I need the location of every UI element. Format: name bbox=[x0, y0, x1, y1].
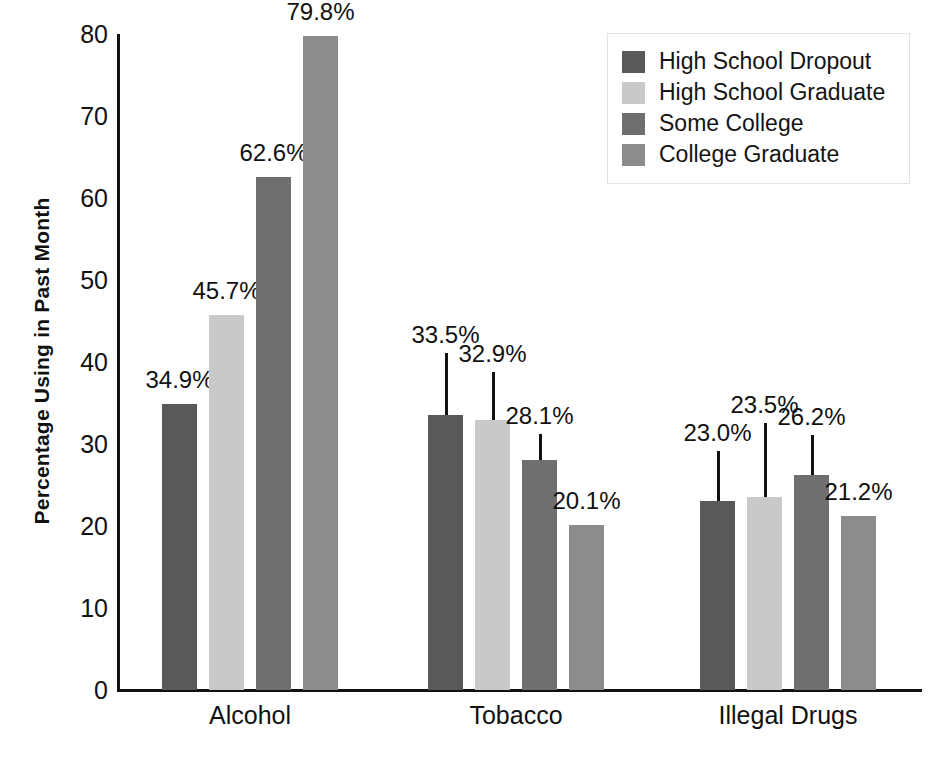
bar bbox=[841, 516, 876, 690]
bar-value-label: 28.1% bbox=[505, 404, 573, 428]
bar-value-label: 79.8% bbox=[286, 0, 354, 24]
bar-value-label: 23.0% bbox=[683, 421, 751, 445]
bar bbox=[209, 315, 244, 690]
legend-item: College Graduate bbox=[608, 139, 909, 170]
y-tick-label: 50 bbox=[46, 268, 108, 293]
x-tick-label: Illegal Drugs bbox=[719, 703, 858, 728]
label-leader-line bbox=[539, 434, 542, 460]
bar-value-label: 20.1% bbox=[552, 489, 620, 513]
x-tick-label: Tobacco bbox=[469, 703, 562, 728]
legend-item: Some College bbox=[608, 108, 909, 139]
y-tick-label: 80 bbox=[46, 22, 108, 47]
bar bbox=[475, 420, 510, 690]
legend-item-label: Some College bbox=[659, 112, 803, 135]
bar-value-label: 32.9% bbox=[458, 342, 526, 366]
label-leader-line bbox=[717, 451, 720, 501]
legend-swatch-icon bbox=[622, 51, 645, 73]
legend-item-label: College Graduate bbox=[659, 143, 839, 166]
label-leader-line bbox=[445, 353, 448, 415]
y-tick-label: 30 bbox=[46, 432, 108, 457]
legend-swatch-icon bbox=[622, 144, 645, 166]
legend-swatch-icon bbox=[622, 113, 645, 135]
bar-value-label: 34.9% bbox=[145, 368, 213, 392]
bar bbox=[747, 497, 782, 690]
y-axis-tick-labels: 80706050403020100 bbox=[38, 0, 108, 758]
bar bbox=[794, 475, 829, 690]
bar bbox=[428, 415, 463, 690]
bar bbox=[162, 404, 197, 690]
bar-value-label: 45.7% bbox=[192, 279, 260, 303]
bar bbox=[569, 525, 604, 690]
y-tick-label: 10 bbox=[46, 596, 108, 621]
bar bbox=[700, 501, 735, 690]
legend-swatch-icon bbox=[622, 82, 645, 104]
y-tick-label: 40 bbox=[46, 350, 108, 375]
y-tick-label: 60 bbox=[46, 186, 108, 211]
x-tick-label: Alcohol bbox=[209, 703, 291, 728]
bar-value-label: 62.6% bbox=[239, 141, 307, 165]
y-tick-label: 70 bbox=[46, 104, 108, 129]
label-leader-line bbox=[811, 435, 814, 475]
y-tick-label: 20 bbox=[46, 514, 108, 539]
legend-item: High School Graduate bbox=[608, 77, 909, 108]
label-leader-line bbox=[492, 372, 495, 420]
bar-group: 33.5%32.9%28.1%20.1% bbox=[428, 34, 604, 690]
legend-item-label: High School Dropout bbox=[659, 50, 871, 73]
legend-item: High School Dropout bbox=[608, 46, 909, 77]
label-leader-line bbox=[764, 423, 767, 497]
chart-canvas: Percentage Using in Past Month 807060504… bbox=[0, 0, 939, 758]
bar-value-label: 26.2% bbox=[777, 405, 845, 429]
legend: High School DropoutHigh School GraduateS… bbox=[607, 33, 910, 184]
bar-group: 34.9%45.7%62.6%79.8% bbox=[162, 34, 338, 690]
y-tick-label: 0 bbox=[46, 678, 108, 703]
bar-value-label: 21.2% bbox=[824, 480, 892, 504]
bar bbox=[256, 177, 291, 690]
legend-item-label: High School Graduate bbox=[659, 81, 885, 104]
bar bbox=[303, 36, 338, 690]
